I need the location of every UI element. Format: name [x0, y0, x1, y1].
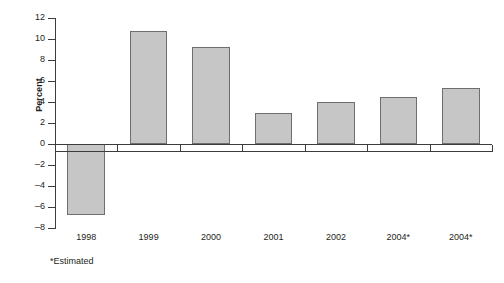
x-axis-tick	[367, 145, 368, 152]
x-axis-tick	[305, 145, 306, 152]
x-axis-tick-label: 2002	[305, 232, 367, 242]
x-axis-tick-label: 2004*	[430, 232, 492, 242]
x-axis-tick-label: 1998	[55, 232, 117, 242]
zero-baseline	[55, 144, 492, 145]
bar	[317, 102, 354, 144]
y-axis-tick	[48, 39, 55, 40]
plot-area	[55, 18, 492, 228]
bar	[130, 31, 167, 144]
x-axis-line	[55, 151, 492, 152]
y-axis-tick-label: –8	[5, 223, 45, 232]
y-axis-tick	[48, 165, 55, 166]
x-axis-tick-label: 2004*	[367, 232, 429, 242]
y-axis-tick	[48, 144, 55, 145]
bar	[67, 144, 104, 215]
bar-chart: Percent 121086420–2–4–6–8 19981999200020…	[0, 0, 504, 283]
y-axis-tick-label: 10	[5, 34, 45, 43]
y-axis-tick-label: 6	[5, 76, 45, 85]
y-axis-tick	[48, 60, 55, 61]
y-axis-tick	[48, 102, 55, 103]
y-axis-tick-label: 2	[5, 118, 45, 127]
y-axis-tick	[48, 81, 55, 82]
bar	[255, 113, 292, 145]
bar	[192, 47, 229, 144]
x-axis-tick	[492, 145, 493, 152]
y-axis-tick-label: –2	[5, 160, 45, 169]
x-axis-tick-label: 2000	[180, 232, 242, 242]
x-axis-tick	[117, 145, 118, 152]
y-axis-tick	[48, 18, 55, 19]
bar	[380, 97, 417, 144]
x-axis-tick	[55, 145, 56, 152]
x-axis-tick	[242, 145, 243, 152]
y-axis-tick-label: –6	[5, 202, 45, 211]
y-axis-tick-label: 0	[5, 139, 45, 148]
y-axis-tick-label: 8	[5, 55, 45, 64]
y-axis-tick	[48, 123, 55, 124]
y-axis-tick-label: 4	[5, 97, 45, 106]
y-axis-tick	[48, 186, 55, 187]
x-axis-tick	[430, 145, 431, 152]
y-axis-tick	[48, 207, 55, 208]
x-axis-tick-label: 2001	[242, 232, 304, 242]
y-axis-tick	[48, 228, 55, 229]
chart-footnote: *Estimated	[50, 256, 94, 266]
x-axis-tick	[180, 145, 181, 152]
x-axis-tick-label: 1999	[117, 232, 179, 242]
y-axis-tick-labels: 121086420–2–4–6–8	[0, 0, 45, 283]
y-axis-tick-label: 12	[5, 13, 45, 22]
y-axis-tick-label: –4	[5, 181, 45, 190]
bar	[442, 88, 479, 144]
